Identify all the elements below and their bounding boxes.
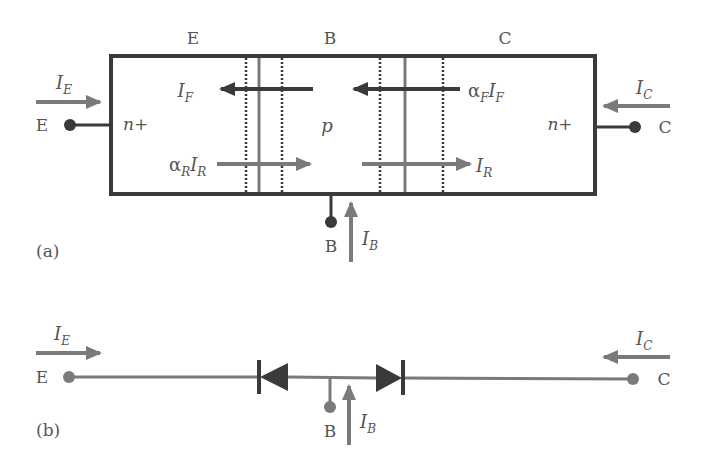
part-b: E IE C IC B IB (b)	[36, 323, 671, 445]
emitter-base-junction	[246, 58, 282, 192]
collector-terminal-dot	[629, 121, 641, 133]
base-terminal-label: B	[324, 421, 337, 441]
emitter-terminal-dot	[64, 119, 76, 131]
collector-wire	[403, 378, 633, 379]
base-terminal-dot	[324, 401, 336, 413]
collector-doping-label: n+	[547, 114, 572, 134]
emitter-doping-label: n+	[123, 114, 148, 134]
emitter-current-label: IE	[53, 323, 70, 348]
collector-region-label: C	[498, 28, 511, 48]
emitter-terminal-label: E	[36, 367, 48, 387]
alpha-r-reverse-current-label: αRIR	[169, 154, 206, 179]
base-wire	[288, 377, 377, 378]
bjt-ebers-moll-diagram: E B C n+ p n+ IF αFIF αRIR IR	[0, 0, 708, 463]
base-emitter-diode	[259, 360, 288, 394]
emitter-current-label: IE	[55, 72, 72, 97]
collector-terminal-dot	[627, 373, 639, 385]
base-collector-junction	[380, 58, 443, 192]
diode-triangle	[260, 363, 288, 391]
base-doping-label: p	[321, 115, 333, 136]
collector-current-label: IC	[635, 77, 652, 102]
alpha-f-forward-current-label: αFIF	[468, 80, 505, 105]
emitter-terminal-label: E	[36, 115, 48, 135]
base-current-label: IB	[361, 228, 378, 253]
emitter-region-label: E	[187, 28, 199, 48]
reverse-current-label: IR	[475, 155, 492, 180]
part-a: E B C n+ p n+ IF αFIF αRIR IR	[36, 28, 672, 262]
part-b-caption: (b)	[36, 420, 60, 440]
emitter-terminal-dot	[63, 371, 75, 383]
forward-current-label: IF	[177, 80, 194, 105]
base-collector-diode	[376, 360, 403, 395]
base-terminal-dot	[325, 216, 337, 228]
base-terminal-label: B	[325, 236, 338, 256]
part-a-caption: (a)	[36, 241, 59, 261]
collector-terminal-label: C	[658, 117, 671, 137]
base-current-label: IB	[359, 411, 376, 436]
collector-current-label: IC	[635, 328, 652, 353]
diode-triangle	[376, 364, 402, 392]
base-region-label: B	[324, 28, 337, 48]
collector-terminal-label: C	[657, 369, 670, 389]
